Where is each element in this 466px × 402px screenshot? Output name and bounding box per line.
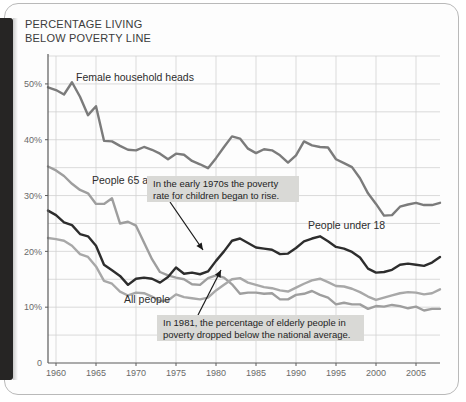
chart-svg: 010%20%30%40%50%196019651970197519801985… <box>0 0 466 402</box>
series-label-3: All people <box>124 293 170 305</box>
y-tick-label: 30% <box>24 191 42 201</box>
annotation-layer: In the early 1970s the povertyrate for c… <box>147 176 364 341</box>
series-label-2: People under 18 <box>308 219 385 231</box>
series-line-3[interactable] <box>48 238 440 301</box>
annotation-arrow-line-0 <box>170 202 203 250</box>
y-tick-label: 20% <box>24 247 42 257</box>
annotation-text-1-line-1: poverty dropped below the national avera… <box>163 329 351 340</box>
annotation-arrow-head-0 <box>196 242 203 250</box>
x-tick-label: 1960 <box>46 368 66 378</box>
x-tick-label: 1980 <box>206 368 226 378</box>
annotation-text-1-line-0: In 1981, the percentage of elderly peopl… <box>163 317 346 328</box>
x-tick-label: 2000 <box>366 368 386 378</box>
poverty-line-chart: 010%20%30%40%50%196019651970197519801985… <box>0 0 466 402</box>
series-label-0: Female household heads <box>76 71 194 83</box>
x-tick-label: 1990 <box>286 368 306 378</box>
x-tick-label: 1965 <box>86 368 106 378</box>
x-tick-label: 1985 <box>246 368 266 378</box>
x-tick-label: 2005 <box>406 368 426 378</box>
y-tick-label: 0 <box>37 358 42 368</box>
x-tick-label: 1975 <box>166 368 186 378</box>
x-tick-label: 1995 <box>326 368 346 378</box>
y-tick-label: 40% <box>24 135 42 145</box>
annotation-text-0-line-0: In the early 1970s the poverty <box>153 178 278 189</box>
y-tick-label: 10% <box>24 302 42 312</box>
chart-page: PERCENTAGE LIVING BELOW POVERTY LINE 010… <box>0 0 466 402</box>
x-tick-label: 1970 <box>126 368 146 378</box>
annotation-text-0-line-1: rate for children began to rise. <box>153 190 279 201</box>
y-tick-label: 50% <box>24 79 42 89</box>
